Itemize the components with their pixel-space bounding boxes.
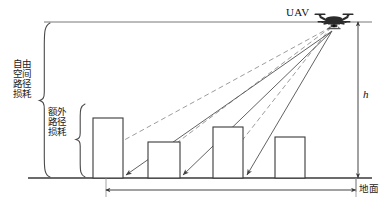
free-space-path-loss-col-left: 自空路损 [12, 59, 22, 99]
ground-label: 地面 [359, 181, 379, 195]
brace-excess-path-loss [76, 104, 85, 177]
uav-label: UAV [286, 6, 310, 18]
brace-free-space-path-loss [40, 23, 51, 177]
excess-path-loss-col-left: 额路损 [47, 107, 57, 137]
excess-path-loss-label: 外径耗 额路损 [47, 107, 66, 137]
diagram-canvas: UAV h 地面 由间径耗 自空路损 外径耗 额路损 [0, 0, 390, 213]
height-label: h [363, 88, 369, 100]
free-space-path-loss-label: 由间径耗 自空路损 [12, 59, 31, 99]
building-4 [275, 137, 305, 178]
free-space-path-loss-col-right: 由间径耗 [22, 59, 32, 99]
building-3 [213, 127, 243, 178]
building-1 [93, 118, 123, 178]
building-group [93, 118, 305, 178]
drone-icon [315, 14, 354, 29]
excess-path-loss-col-right: 外径耗 [57, 107, 67, 137]
building-2 [148, 142, 180, 178]
span-dimension-arrow [106, 178, 356, 197]
